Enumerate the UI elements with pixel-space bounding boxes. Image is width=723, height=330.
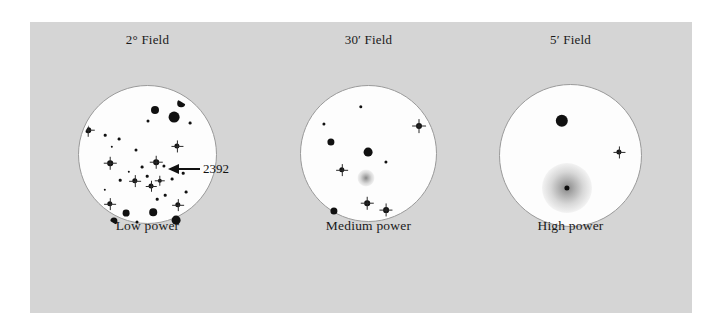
- field-caption-medium-power: Medium power: [300, 218, 437, 234]
- eyepiece-circle-medium-power: [300, 85, 437, 222]
- field-caption-low-power: Low power: [78, 218, 217, 234]
- field-title-low-power: 2° Field: [78, 32, 217, 48]
- eyepiece-circle-low-power: [78, 85, 217, 224]
- field-title-high-power: 5′ Field: [499, 32, 642, 48]
- figure-stage: 2° Field Low power 30′ Field Medium powe…: [0, 0, 723, 330]
- field-view-high-power: 5′ Field High power: [499, 0, 642, 291]
- field-caption-high-power: High power: [499, 218, 642, 234]
- eyepiece-circle-high-power: [499, 84, 642, 227]
- field-view-medium-power: 30′ Field Medium power: [300, 0, 437, 291]
- field-view-low-power: 2° Field Low power: [78, 0, 217, 291]
- field-title-medium-power: 30′ Field: [300, 32, 437, 48]
